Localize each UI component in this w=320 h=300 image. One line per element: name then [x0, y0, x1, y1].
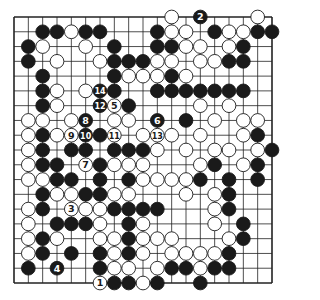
- black-stone: [150, 202, 164, 216]
- black-stone: [107, 69, 121, 83]
- white-stone: [21, 232, 35, 246]
- black-stone: [93, 187, 107, 201]
- white-stone: [179, 143, 193, 157]
- black-stone: [122, 232, 136, 246]
- black-stone: [64, 143, 78, 157]
- white-stone-move-7: 7: [79, 158, 93, 172]
- white-stone: [222, 40, 236, 54]
- move-number: 10: [80, 132, 92, 141]
- black-stone: [21, 261, 35, 275]
- move-number: 6: [154, 115, 161, 126]
- white-stone: [93, 232, 107, 246]
- white-stone: [21, 247, 35, 261]
- white-stone: [79, 202, 93, 216]
- black-stone: [122, 54, 136, 68]
- white-stone: [208, 187, 222, 201]
- move-number: 8: [82, 115, 89, 126]
- white-stone: [179, 25, 193, 39]
- black-stone: [222, 247, 236, 261]
- black-stone: [107, 84, 121, 98]
- white-stone: [222, 25, 236, 39]
- black-stone: [79, 187, 93, 201]
- white-stone: [179, 40, 193, 54]
- black-stone: [93, 158, 107, 172]
- black-stone: [265, 143, 279, 157]
- white-stone: [50, 128, 64, 142]
- black-stone: [236, 217, 250, 231]
- white-stone: [50, 187, 64, 201]
- white-stone: [222, 99, 236, 113]
- white-stone-move-3: 3: [64, 202, 78, 216]
- white-stone: [136, 247, 150, 261]
- black-stone: [36, 99, 50, 113]
- white-stone: [122, 187, 136, 201]
- black-stone-move-6: 6: [150, 114, 164, 128]
- white-stone: [107, 114, 121, 128]
- white-stone: [122, 158, 136, 172]
- black-stone: [79, 25, 93, 39]
- white-stone: [165, 232, 179, 246]
- move-number: 3: [68, 203, 75, 214]
- white-stone: [93, 217, 107, 231]
- move-number: 13: [152, 132, 163, 141]
- black-stone: [208, 84, 222, 98]
- black-stone: [36, 247, 50, 261]
- white-stone: [21, 143, 35, 157]
- move-number: 5: [111, 100, 118, 111]
- black-stone: [36, 187, 50, 201]
- white-stone: [179, 69, 193, 83]
- white-stone: [122, 114, 136, 128]
- black-stone: [21, 54, 35, 68]
- move-number: 14: [94, 87, 106, 96]
- black-stone: [251, 158, 265, 172]
- black-stone: [236, 84, 250, 98]
- white-stone: [150, 173, 164, 187]
- black-stone: [236, 54, 250, 68]
- white-stone: [179, 173, 193, 187]
- black-stone: [208, 158, 222, 172]
- white-stone-move-11: 11: [107, 128, 121, 142]
- black-stone: [165, 84, 179, 98]
- black-stone: [122, 276, 136, 290]
- white-stone: [136, 158, 150, 172]
- black-stone: [136, 143, 150, 157]
- white-stone: [36, 114, 50, 128]
- black-stone: [107, 202, 121, 216]
- black-stone: [93, 261, 107, 275]
- black-stone: [107, 276, 121, 290]
- black-stone: [64, 247, 78, 261]
- white-stone: [107, 232, 121, 246]
- black-stone: [93, 25, 107, 39]
- white-stone: [79, 40, 93, 54]
- white-stone: [236, 128, 250, 142]
- black-stone: [122, 173, 136, 187]
- black-stone: [93, 128, 107, 142]
- white-stone: [208, 143, 222, 157]
- black-stone: [222, 261, 236, 275]
- white-stone: [208, 217, 222, 231]
- black-stone: [251, 128, 265, 142]
- white-stone: [251, 143, 265, 157]
- black-stone: [236, 232, 250, 246]
- black-stone: [122, 202, 136, 216]
- white-stone: [136, 128, 150, 142]
- white-stone: [21, 128, 35, 142]
- black-stone-move-14: 14: [93, 84, 107, 98]
- black-stone: [222, 84, 236, 98]
- black-stone-move-10: 10: [79, 128, 93, 142]
- black-stone: [79, 217, 93, 231]
- black-stone: [36, 25, 50, 39]
- white-stone: [179, 187, 193, 201]
- white-stone: [93, 202, 107, 216]
- white-stone: [21, 158, 35, 172]
- white-stone: [179, 247, 193, 261]
- black-stone: [93, 173, 107, 187]
- white-stone: [107, 158, 121, 172]
- white-stone: [165, 128, 179, 142]
- black-stone: [50, 217, 64, 231]
- black-stone: [36, 128, 50, 142]
- white-stone: [107, 187, 121, 201]
- white-stone: [64, 187, 78, 201]
- black-stone: [150, 276, 164, 290]
- black-stone: [251, 25, 265, 39]
